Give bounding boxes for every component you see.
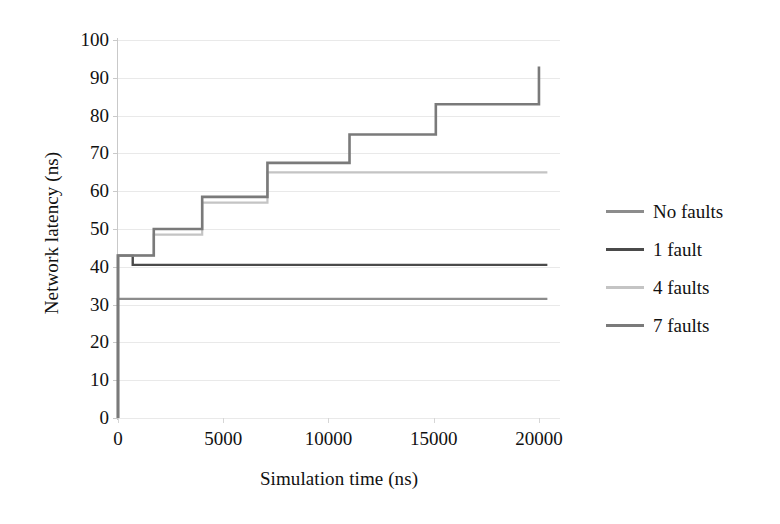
series-line — [118, 255, 547, 418]
legend-item-label: 4 faults — [653, 278, 709, 297]
x-axis-tick-label: 0 — [113, 428, 123, 450]
series-line — [118, 172, 547, 418]
chart-legend: No faults1 fault4 faults7 faults — [606, 192, 774, 344]
series-layer — [118, 40, 560, 418]
legend-swatch-icon — [606, 248, 644, 251]
x-axis-tick-label: 15000 — [410, 428, 458, 450]
y-axis-tick-label: 50 — [90, 218, 109, 240]
x-axis-tick — [223, 418, 224, 423]
gridline — [118, 418, 560, 419]
x-axis-tick — [434, 418, 435, 423]
y-axis-tick-label: 70 — [90, 142, 109, 164]
plot-area: 0102030405060708090100 05000100001500020… — [118, 40, 560, 418]
x-axis-tick-label: 20000 — [515, 428, 563, 450]
x-axis-title: Simulation time (ns) — [118, 468, 560, 490]
legend-item-label: No faults — [653, 202, 723, 221]
x-axis-tick — [118, 418, 119, 423]
x-axis-tick-label: 5000 — [204, 428, 242, 450]
x-axis-tick-label: 10000 — [305, 428, 353, 450]
legend-item-label: 7 faults — [653, 316, 709, 335]
chart-figure: Network latency (ns) 0102030405060708090… — [0, 0, 780, 524]
y-axis-tick-label: 60 — [90, 180, 109, 202]
legend-item[interactable]: 4 faults — [606, 268, 774, 306]
y-axis-tick-label: 40 — [90, 256, 109, 278]
series-line — [118, 299, 547, 418]
y-axis-tick-label: 90 — [90, 67, 109, 89]
y-axis-tick-label: 80 — [90, 105, 109, 127]
x-axis-tick — [328, 418, 329, 423]
series-line — [118, 66, 539, 418]
legend-swatch-icon — [606, 324, 644, 327]
legend-item[interactable]: No faults — [606, 192, 774, 230]
y-axis-tick-label: 10 — [90, 369, 109, 391]
legend-swatch-icon — [606, 286, 644, 289]
legend-item[interactable]: 1 fault — [606, 230, 774, 268]
legend-item-label: 1 fault — [653, 240, 702, 259]
legend-swatch-icon — [606, 210, 644, 213]
x-axis-tick — [539, 418, 540, 423]
y-axis-tick-label: 100 — [81, 29, 110, 51]
y-axis-title: Network latency (ns) — [41, 103, 63, 363]
y-axis-tick-label: 20 — [90, 331, 109, 353]
y-axis-tick-label: 0 — [100, 407, 110, 429]
y-axis-tick-label: 30 — [90, 294, 109, 316]
legend-item[interactable]: 7 faults — [606, 306, 774, 344]
